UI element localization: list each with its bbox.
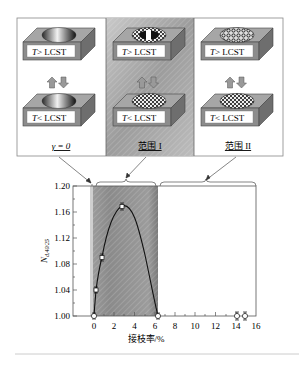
schematic-panels: T> LCST T< LCST γ = 0 T> LCST (17, 18, 283, 156)
svg-text:4: 4 (132, 321, 137, 331)
data-point (94, 287, 98, 293)
y-axis-label: Nd,40/25 (39, 239, 50, 264)
svg-text:T< LCST: T< LCST (32, 113, 67, 123)
svg-text:T> LCST: T> LCST (32, 47, 67, 57)
svg-text:2: 2 (112, 321, 117, 331)
y-axis-labels: 1.00 1.04 1.08 1.12 1.16 1.20 (54, 181, 70, 321)
figure: T> LCST T< LCST γ = 0 T> LCST (0, 0, 299, 365)
data-point (155, 313, 160, 319)
block-bottom: T< LCST (23, 94, 95, 127)
svg-text:1.04: 1.04 (54, 285, 70, 295)
svg-text:16: 16 (252, 321, 262, 331)
block-top: T> LCST (113, 28, 185, 61)
data-point (234, 312, 239, 320)
brace-range1 (96, 179, 156, 186)
svg-text:T< LCST: T< LCST (122, 113, 157, 123)
svg-text:14: 14 (232, 321, 242, 331)
svg-text:1.08: 1.08 (54, 259, 70, 269)
x-axis-labels: 0 2 4 6 8 10 12 14 16 (92, 321, 261, 331)
svg-text:1.20: 1.20 (54, 181, 70, 191)
plot: 1.00 1.04 1.08 1.12 1.16 1.20 Nd,40/25 (39, 181, 261, 344)
caption-range1: 范围 I (138, 140, 161, 151)
block-bottom: T< LCST (201, 94, 273, 127)
svg-text:1.12: 1.12 (54, 233, 70, 243)
svg-text:0: 0 (92, 321, 97, 331)
block-top: T> LCST (201, 28, 273, 61)
dense-chains-collapsed-icon (220, 28, 254, 43)
pore-icon (42, 94, 76, 109)
svg-text:T> LCST: T> LCST (210, 47, 245, 57)
svg-text:1.16: 1.16 (54, 207, 70, 217)
caption-range2: 范围 II (225, 140, 251, 151)
brace-range2 (160, 179, 256, 186)
y-axis-ticks (73, 186, 77, 316)
svg-text:T< LCST: T< LCST (210, 113, 245, 123)
svg-text:1.00: 1.00 (54, 311, 70, 321)
connector-arrows (59, 157, 256, 186)
block-top: T> LCST (23, 28, 95, 61)
pore-icon (42, 28, 76, 43)
x-axis-label: 接枝率/% (128, 333, 166, 344)
data-point (91, 313, 96, 319)
svg-text:T> LCST: T> LCST (122, 47, 157, 57)
block-bottom: T< LCST (113, 94, 185, 127)
grafted-chains-extended-icon (132, 94, 166, 109)
dense-chains-extended-icon (220, 94, 254, 109)
caption-gamma0: γ = 0 (52, 141, 71, 151)
svg-text:8: 8 (173, 321, 178, 331)
svg-text:6: 6 (153, 321, 158, 331)
svg-text:10: 10 (191, 321, 201, 331)
data-point (242, 312, 247, 320)
svg-text:12: 12 (211, 321, 220, 331)
